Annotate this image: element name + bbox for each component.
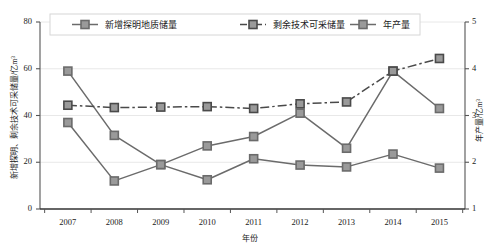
data-point-marker: [343, 144, 351, 152]
data-point-marker: [296, 100, 304, 108]
data-point-marker: [157, 161, 165, 169]
data-point-marker: [110, 177, 118, 185]
chart-legend: 新增探明地质储量剩余技术可采储量年产量: [50, 14, 420, 35]
data-point-marker: [250, 155, 258, 163]
data-point-marker: [435, 104, 443, 112]
legend-label-1: 新增探明地质储量: [105, 19, 177, 30]
data-point-marker: [296, 109, 304, 117]
legend-label-2: 剩余技术可采储量: [273, 19, 345, 30]
series-2: [64, 54, 444, 112]
data-point-marker: [296, 161, 304, 169]
series-line: [68, 123, 440, 181]
series-line: [68, 59, 440, 109]
series-line: [68, 71, 440, 165]
data-point-marker: [343, 163, 351, 171]
data-point-marker: [249, 21, 257, 29]
data-point-marker: [203, 176, 211, 184]
chart-container: 新增探明、剩余技术可采储量/亿m³ 年产量/亿m³ 年份 02040608012…: [0, 0, 499, 252]
data-point-marker: [435, 164, 443, 172]
series-1: [64, 67, 444, 168]
data-series-layer: [64, 54, 444, 184]
data-point-marker: [435, 54, 443, 62]
legend-label-3: 年产量: [383, 19, 410, 30]
plot-area: 新增探明地质储量剩余技术可采储量年产量: [0, 0, 499, 252]
data-point-marker: [64, 67, 72, 75]
series-3: [64, 119, 444, 185]
data-point-marker: [157, 103, 165, 111]
data-point-marker: [64, 119, 72, 127]
data-point-marker: [250, 133, 258, 141]
data-point-marker: [250, 104, 258, 112]
data-point-marker: [110, 104, 118, 112]
data-point-marker: [389, 150, 397, 158]
data-point-marker: [81, 21, 89, 29]
data-point-marker: [64, 101, 72, 109]
data-point-marker: [343, 98, 351, 106]
data-point-marker: [203, 142, 211, 150]
data-point-marker: [389, 67, 397, 75]
data-point-marker: [110, 131, 118, 139]
data-point-marker: [359, 21, 367, 29]
data-point-marker: [203, 103, 211, 111]
